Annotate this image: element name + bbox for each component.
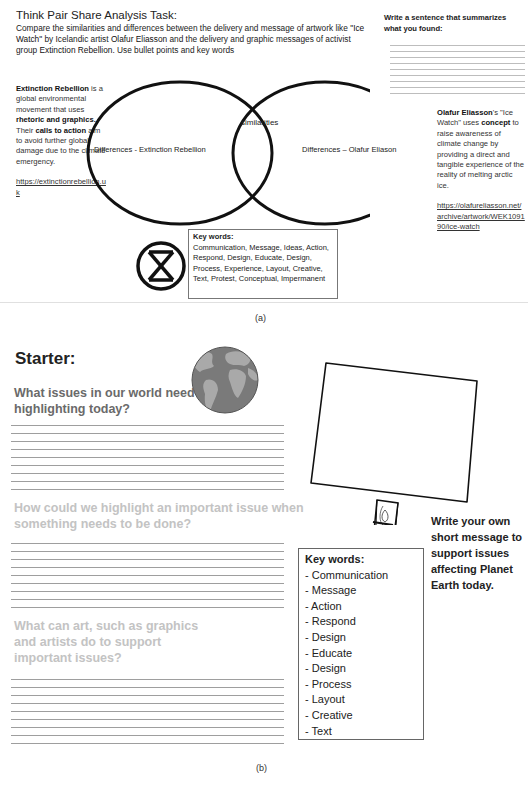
key-word-item: - Educate [305,646,417,662]
writing-line[interactable] [11,552,284,560]
writing-line[interactable] [11,560,284,568]
key-word-item: - Creative [305,708,417,724]
sign-board[interactable] [311,363,477,502]
writing-line[interactable] [11,736,284,744]
writing-line[interactable] [11,458,284,466]
write-message-prompt: Write your own short message to support … [431,513,527,593]
answer-lines-2[interactable] [11,536,284,608]
task-text: . Use bullet points and key words [112,45,234,55]
caption-a: (a) [255,313,266,323]
venn-diagram [80,70,370,240]
olafur-name: Olafur Eliasson [437,108,493,117]
question-3: What can art, such as graphics and artis… [14,618,214,666]
writing-line[interactable] [11,544,284,552]
writing-line[interactable] [11,696,284,704]
writing-line[interactable] [11,450,284,458]
writing-line[interactable] [11,434,284,442]
key-word-item: - Design [305,630,417,646]
writing-line[interactable] [11,576,284,584]
key-word-item: - Text [305,724,417,740]
panel-a-venn-worksheet: Think Pair Share Analysis Task: Compare … [0,0,528,305]
key-word-item: - Action [305,599,417,615]
key-word-item: - Process [305,677,417,693]
key-word-item: - Communication [305,568,417,584]
key-words-box-b: Key words: - Communication - Message - A… [298,548,424,740]
writing-line[interactable] [11,728,284,736]
blank-protest-sign[interactable] [305,350,485,525]
writing-line[interactable] [11,680,284,688]
writing-line[interactable] [11,418,284,426]
olafur-text: to raise awareness of climate change by … [437,118,524,189]
writing-line[interactable] [11,672,284,680]
writing-line[interactable] [11,536,284,544]
task-text: by Icelandic artist [42,34,111,44]
key-word-item: - Layout [305,692,417,708]
panel-divider [0,302,528,303]
extinction-symbol-icon [135,240,187,292]
summary-writing-lines[interactable] [390,40,525,94]
task-title: Think Pair Share Analysis Task: [16,9,177,21]
olafur-description: Olafur Eliasson's "Ice Watch" uses conce… [437,108,525,232]
writing-line[interactable] [11,466,284,474]
task-text: Compare the similarities and differences… [16,23,350,33]
key-words-box: Key words: Communication, Message, Ideas… [188,229,338,299]
artist-name: Olafur Eliasson [111,34,167,44]
olafur-bold: concept [481,118,510,127]
task-instructions: Compare the similarities and differences… [16,23,366,56]
writing-line[interactable] [11,482,284,490]
key-words-list: Communication, Message, Ideas, Action, R… [193,243,333,285]
writing-line[interactable] [11,592,284,600]
caption-b: (b) [256,763,267,773]
answer-lines-1[interactable] [11,418,284,490]
writing-line[interactable] [11,568,284,576]
question-1: What issues in our world need highlighti… [14,385,224,417]
group-name: Extinction Rebellion [40,45,113,55]
writing-line[interactable] [390,88,525,94]
writing-line[interactable] [11,442,284,450]
summary-prompt: Write a sentence that summarizes what yo… [384,12,524,34]
starter-heading: Starter: [15,349,75,369]
writing-line[interactable] [11,712,284,720]
key-word-item: - Message [305,583,417,599]
writing-line[interactable] [11,584,284,592]
venn-left-label: Differences - Extinction Rebellion [94,145,206,154]
key-word-item: - Design [305,661,417,677]
writing-line[interactable] [11,600,284,608]
venn-middle-label: similarities [241,118,278,127]
answer-lines-3[interactable] [11,672,284,744]
question-2: How could we highlight an important issu… [14,500,304,532]
writing-line[interactable] [11,426,284,434]
writing-line[interactable] [11,474,284,482]
er-name: Extinction Rebellion [16,84,89,93]
er-text: Their [16,126,35,135]
writing-line[interactable] [11,720,284,728]
writing-line[interactable] [11,688,284,696]
key-words-heading: Key words: [305,552,417,568]
er-bold: calls to action [35,126,86,135]
writing-line[interactable] [11,704,284,712]
key-word-item: - Respond [305,614,417,630]
venn-right-label: Differences – Olafur Eliason [302,145,396,154]
olafur-link[interactable]: https://olafureliasson.net/archive/artwo… [437,201,525,232]
key-words-heading: Key words: [193,232,333,243]
